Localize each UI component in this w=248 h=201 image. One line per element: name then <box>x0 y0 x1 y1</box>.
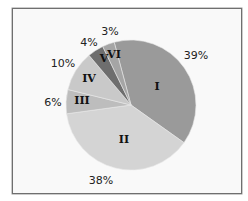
slice-label-ii: II <box>119 133 129 146</box>
pct-label-i: 39% <box>184 49 208 62</box>
slice-label-i: I <box>154 80 159 93</box>
slice-label-iv: IV <box>82 72 96 85</box>
pct-label-vi: 3% <box>101 25 118 38</box>
slice-label-vi: VI <box>106 48 121 61</box>
pie-chart: I II III IV V VI 39% 38% 6% 10% 4% 3% <box>0 0 248 201</box>
pct-label-v: 4% <box>80 36 97 49</box>
pct-label-iv: 10% <box>51 57 75 70</box>
pct-label-ii: 38% <box>89 174 113 187</box>
pct-label-iii: 6% <box>44 96 61 109</box>
slice-label-iii: III <box>74 94 89 107</box>
